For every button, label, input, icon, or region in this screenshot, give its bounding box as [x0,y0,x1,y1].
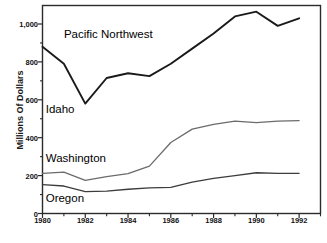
x-tick-label: 1992 [291,216,308,225]
y-tick-label: 1,000 [19,20,38,29]
x-tick-label: 1982 [77,216,94,225]
x-tick-label: 1986 [162,216,179,225]
y-tick-label: 800 [25,57,38,66]
x-tick-label: 1984 [120,216,137,225]
y-tick-label: 200 [25,171,38,180]
y-axis-tick-labels: 02004006008001,000 [0,0,38,243]
series-label-pacific-northwest: Pacific Northwest [64,28,153,40]
annotation-label-idaho: Idaho [46,103,75,115]
y-tick-label: 400 [25,133,38,142]
x-tick-label: 1988 [205,216,222,225]
y-tick-label: 600 [25,95,38,104]
x-axis-tick-labels: 1980198219841986198819901992 [0,216,327,236]
series-line-pacific-northwest [43,12,300,104]
series-line-washington [43,121,300,181]
line-chart: Millions Of Dollars 02004006008001,000 1… [0,0,327,243]
x-tick-label: 1990 [248,216,265,225]
series-label-washington: Washington [46,152,106,164]
plot-area [0,0,327,243]
series-line-oregon [43,173,300,192]
series-label-oregon: Oregon [46,192,84,204]
x-tick-label: 1980 [34,216,51,225]
